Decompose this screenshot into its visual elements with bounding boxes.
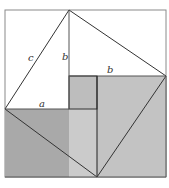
small-square [69,76,97,109]
label-a: a [39,98,45,109]
label-c: c [28,52,34,63]
label-b-horizontal: b [107,64,113,75]
square-a [5,109,69,177]
label-b-vertical: b [62,51,68,62]
pythagorean-diagram: c b b a [0,0,169,188]
